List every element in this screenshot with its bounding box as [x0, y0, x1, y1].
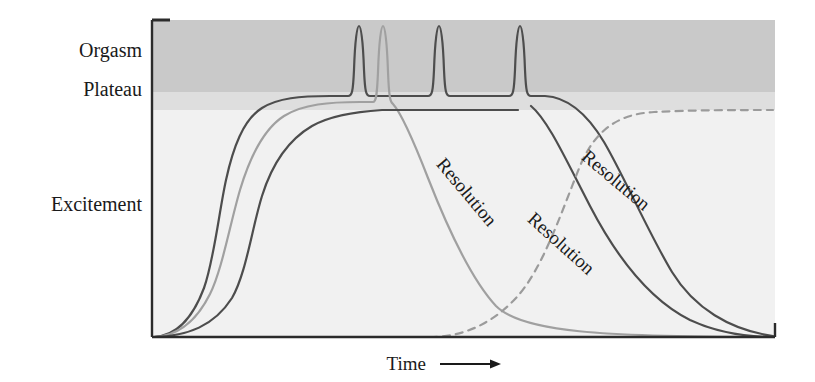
band-excitement [152, 110, 775, 337]
y-axis-label-plateau: Plateau [83, 78, 142, 100]
human-sexual-response-cycle-chart: ResolutionResolutionResolution Orgasm Pl… [0, 0, 815, 382]
x-axis-label-group: Time [387, 353, 501, 374]
x-axis-label-time: Time [387, 353, 426, 374]
band-orgasm [152, 20, 775, 92]
y-axis-label-excitement: Excitement [51, 193, 143, 215]
band-plateau [152, 92, 775, 110]
right-arrow-icon [440, 360, 501, 369]
y-axis-label-orgasm: Orgasm [79, 39, 142, 62]
y-axis-labels: Orgasm Plateau Excitement [51, 39, 143, 215]
